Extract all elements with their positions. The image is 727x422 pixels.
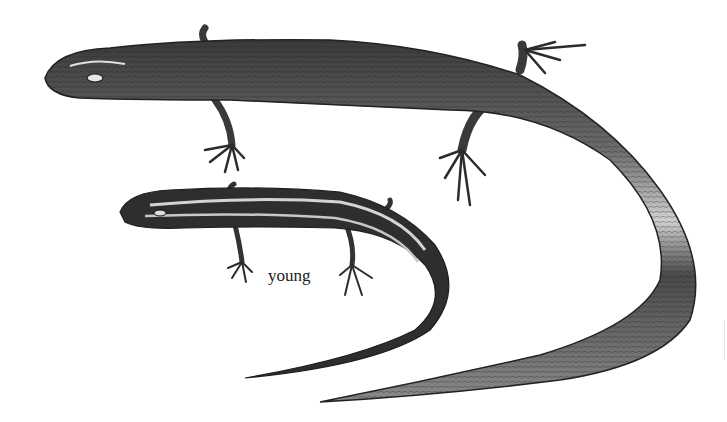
skink-illustration [0,0,727,422]
young-eye [154,210,166,216]
scan-edge-mark [724,320,725,360]
young-label: young [268,266,311,286]
adult-eye [87,74,103,82]
adult-front-foot [205,145,244,172]
